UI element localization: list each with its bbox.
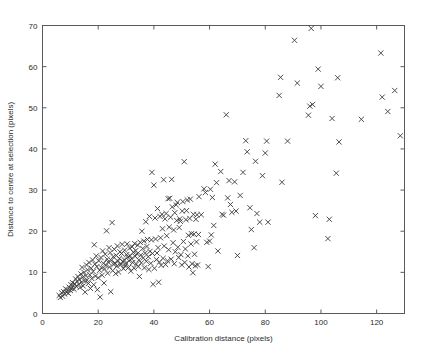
y-tick-label: 0 [33, 310, 38, 319]
y-tick-label: 70 [29, 22, 38, 31]
scatter-plot: 020406080100120010203040506070Calibratio… [0, 0, 423, 353]
x-tick-label: 60 [205, 318, 214, 327]
y-tick-label: 10 [29, 268, 38, 277]
x-tick-label: 0 [40, 318, 45, 327]
x-tick-label: 100 [314, 318, 328, 327]
y-tick-label: 50 [29, 104, 38, 113]
x-tick-label: 20 [94, 318, 103, 327]
figure-background [0, 0, 423, 353]
y-tick-label: 60 [29, 63, 38, 72]
y-axis-title: Distance to centre at selection (pixels) [6, 102, 15, 238]
x-tick-label: 80 [261, 318, 270, 327]
y-tick-label: 40 [29, 145, 38, 154]
x-axis-title: Calibration distance (pixels) [174, 334, 273, 343]
x-tick-label: 40 [149, 318, 158, 327]
x-tick-label: 120 [370, 318, 384, 327]
y-tick-label: 20 [29, 227, 38, 236]
y-tick-label: 30 [29, 186, 38, 195]
figure-container: 020406080100120010203040506070Calibratio… [0, 0, 423, 353]
